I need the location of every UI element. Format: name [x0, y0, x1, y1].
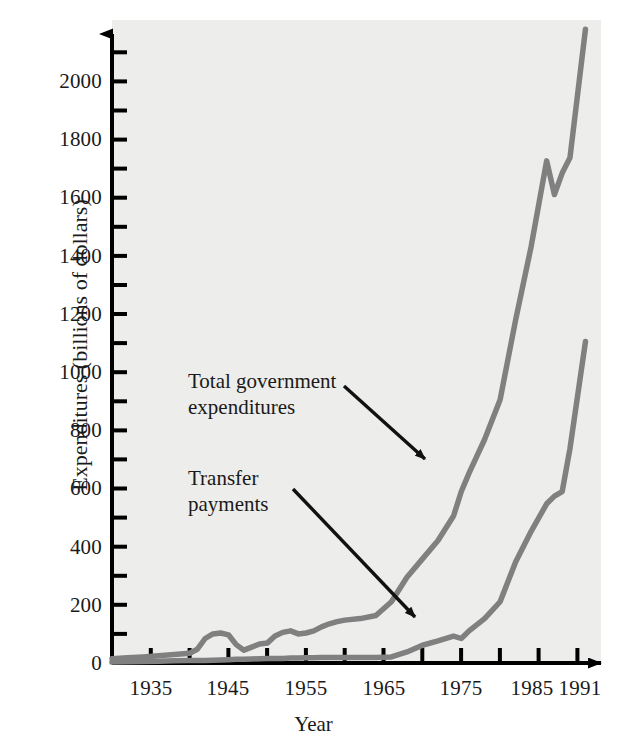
x-tick-label: 1965	[344, 676, 424, 701]
x-tick-label: 1991	[540, 676, 620, 701]
data-series-group	[112, 29, 585, 662]
x-axis-title: Year	[0, 712, 627, 737]
annotation-transfer-payments: Transfer payments	[188, 466, 268, 517]
y-axis-ticks	[112, 52, 127, 663]
x-tick-label: 1945	[188, 676, 268, 701]
x-tick-label: 1955	[266, 676, 346, 701]
annotation-arrow-total-government-expenditures	[344, 386, 425, 459]
annotation-arrow-transfer-payments	[293, 489, 415, 617]
annotation-total-government-expenditures: Total government expenditures	[188, 369, 336, 420]
x-tick-label: 1935	[111, 676, 191, 701]
chart-figure: 0 200 400 600 800 1000 1200 1400 1600 18…	[0, 0, 627, 741]
x-tick-label: 1975	[421, 676, 501, 701]
y-axis-title: Expenditures (billions of dollars)	[67, 25, 93, 665]
